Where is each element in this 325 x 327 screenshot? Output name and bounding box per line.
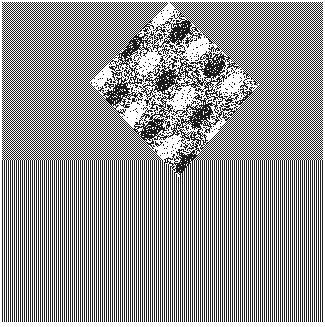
automaton-figure bbox=[0, 0, 325, 327]
automaton-canvas bbox=[0, 0, 325, 327]
